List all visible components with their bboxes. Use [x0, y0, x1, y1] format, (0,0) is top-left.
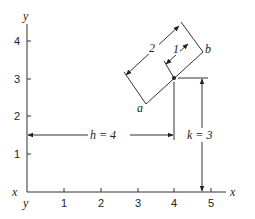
x-tick-label: 4: [171, 197, 177, 209]
length-1-label: 1: [173, 42, 179, 56]
y-tick-label: 2: [14, 110, 20, 122]
h-label: h = 4: [90, 128, 116, 142]
coordinate-diagram: y x x y 4 3 2 1 1 2 3 4 5 2 1 a b h = 4 …: [0, 0, 255, 219]
y-tick-label: 3: [14, 73, 20, 85]
k-label: k = 3: [187, 128, 212, 142]
y-axis: [27, 24, 31, 192]
x-tick-label: 5: [208, 197, 214, 209]
rotated-segment: [124, 22, 203, 104]
length-2-label: 2: [149, 41, 155, 55]
endpoint-a-label: a: [137, 101, 143, 115]
origin-x-label: x: [11, 185, 18, 199]
y-tick-label: 4: [14, 35, 20, 47]
origin-y-label: y: [22, 196, 29, 210]
x-axis-label: x: [229, 185, 236, 199]
x-tick-label: 2: [98, 197, 104, 209]
x-axis: [27, 188, 226, 192]
y-tick-label: 1: [14, 148, 20, 160]
x-tick-label: 1: [61, 197, 67, 209]
y-axis-label: y: [22, 9, 29, 23]
endpoint-b-label: b: [205, 42, 211, 56]
x-tick-label: 3: [135, 197, 141, 209]
